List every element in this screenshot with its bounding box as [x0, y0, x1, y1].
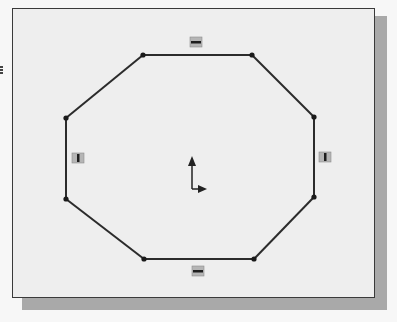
sketch-vertex-point[interactable] — [249, 52, 254, 57]
sketch-line[interactable] — [254, 197, 314, 259]
constraints — [72, 37, 331, 276]
sketch-vertex-point[interactable] — [251, 256, 256, 261]
sketch-vertex-point[interactable] — [141, 256, 146, 261]
vertical-constraint-icon[interactable] — [72, 153, 84, 163]
horizontal-constraint-icon[interactable] — [190, 37, 202, 47]
sketch-origin-axes-icon — [188, 156, 207, 193]
vertical-constraint-icon[interactable] — [319, 152, 331, 162]
octagon-sketch[interactable] — [63, 52, 316, 261]
horizontal-constraint-icon[interactable] — [192, 266, 204, 276]
sketch-line[interactable] — [66, 55, 143, 118]
sketch-line[interactable] — [66, 199, 144, 259]
sketch-vertex-point[interactable] — [63, 196, 68, 201]
sketch-vertex-point[interactable] — [140, 52, 145, 57]
sketch-canvas[interactable] — [0, 0, 397, 322]
sketch-line[interactable] — [252, 55, 314, 117]
sketch-vertex-point[interactable] — [311, 114, 316, 119]
sketch-vertex-point[interactable] — [311, 194, 316, 199]
sketch-vertex-point[interactable] — [63, 115, 68, 120]
